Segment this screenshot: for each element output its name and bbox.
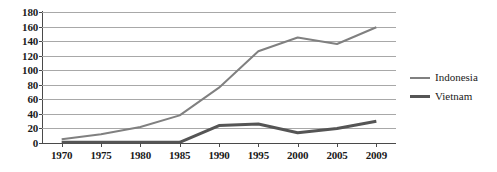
legend-label-vietnam: Vietnam [435, 91, 472, 102]
y-tick-label-140: 140 [0, 36, 38, 47]
legend-line-swatch-indonesia [410, 77, 430, 79]
x-tick-mark-1970 [62, 143, 63, 147]
x-tick-mark-2005 [337, 143, 338, 147]
x-tick-mark-1975 [101, 143, 102, 147]
x-tick-label-1970: 1970 [51, 150, 72, 161]
legend-label-indonesia: Indonesia [435, 72, 478, 83]
series-line-indonesia [62, 27, 377, 139]
legend-entry-vietnam[interactable]: Vietnam [410, 87, 497, 106]
y-axis-tick-labels: 020406080100120140160180 [0, 0, 38, 172]
chart-legend: IndonesiaVietnam [410, 68, 497, 106]
x-tick-mark-2009 [376, 143, 377, 147]
x-tick-label-2005: 2005 [326, 150, 347, 161]
x-tick-label-1990: 1990 [208, 150, 229, 161]
y-tick-label-60: 60 [0, 94, 38, 105]
x-tick-label-1995: 1995 [248, 150, 269, 161]
x-tick-mark-1980 [140, 143, 141, 147]
y-tick-label-20: 20 [0, 123, 38, 134]
y-tick-label-160: 160 [0, 22, 38, 33]
y-tick-label-40: 40 [0, 109, 38, 120]
legend-entry-indonesia[interactable]: Indonesia [410, 68, 497, 87]
plot-area [42, 12, 396, 143]
line-chart: 020406080100120140160180 197019751980198… [0, 0, 497, 172]
series-layer [42, 12, 396, 143]
x-tick-mark-1985 [180, 143, 181, 147]
x-tick-label-2009: 2009 [366, 150, 387, 161]
x-tick-label-1985: 1985 [169, 150, 190, 161]
y-tick-label-180: 180 [0, 7, 38, 18]
y-tick-label-80: 80 [0, 80, 38, 91]
x-axis-tick-labels: 197019751980198519901995200020052009 [42, 150, 396, 168]
x-tick-mark-1990 [219, 143, 220, 147]
y-tick-label-100: 100 [0, 65, 38, 76]
y-tick-label-0: 0 [0, 138, 38, 149]
series-line-vietnam [62, 121, 377, 142]
x-tick-mark-1995 [258, 143, 259, 147]
y-tick-label-120: 120 [0, 51, 38, 62]
legend-line-swatch-vietnam [410, 95, 430, 98]
x-tick-label-1975: 1975 [90, 150, 111, 161]
x-tick-mark-2000 [298, 143, 299, 147]
x-tick-label-1980: 1980 [130, 150, 151, 161]
x-tick-label-2000: 2000 [287, 150, 308, 161]
